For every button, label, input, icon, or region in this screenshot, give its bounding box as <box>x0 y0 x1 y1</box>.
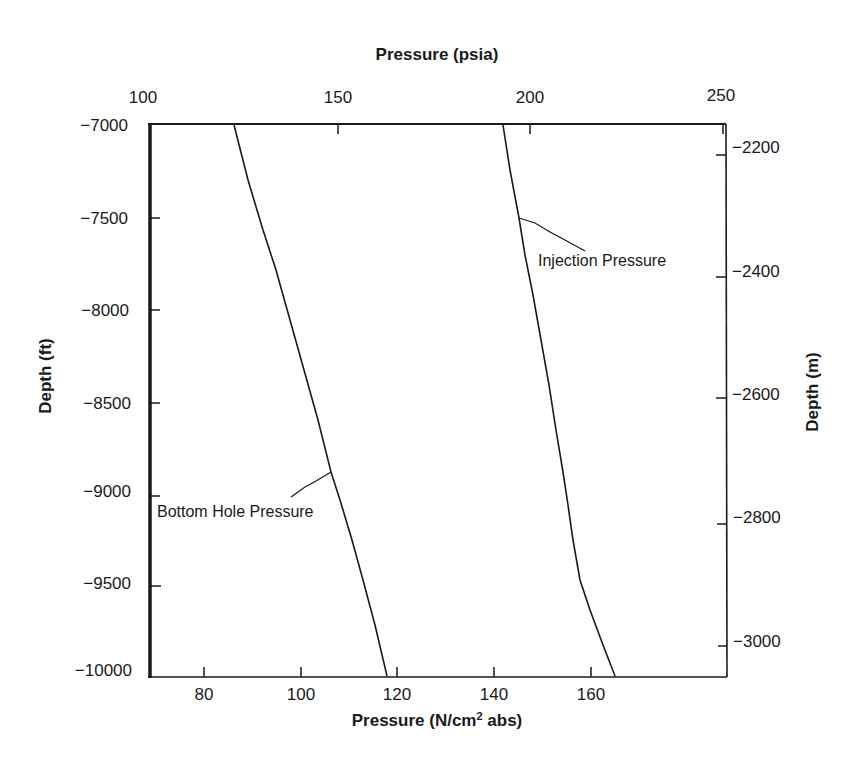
bottom-tick-label: 100 <box>287 685 315 704</box>
series-bottom-hole-pressure <box>234 125 387 676</box>
left-tick-label: −7500 <box>80 209 128 228</box>
leader-line <box>291 472 331 497</box>
left-tick-label: −8500 <box>83 394 131 413</box>
left-tick-label: −9000 <box>83 482 131 501</box>
right-tick-label: −2800 <box>733 508 781 527</box>
annotation-label: Bottom Hole Pressure <box>157 503 314 520</box>
bottom-tick-label: 80 <box>195 685 214 704</box>
right-tick-label: −3000 <box>733 632 781 651</box>
left-tick-label: −7000 <box>80 116 128 135</box>
left-tick-label: −9500 <box>83 574 131 593</box>
top-tick-label: 150 <box>324 88 352 107</box>
annotation-label: Injection Pressure <box>538 252 666 269</box>
bottom-axis-title: Pressure (N/cm2 abs) <box>352 710 523 730</box>
annotation-injection-pressure: Injection Pressure <box>519 218 666 269</box>
axis-right <box>726 124 727 677</box>
bottom-tick-label: 120 <box>383 685 411 704</box>
leader-line <box>519 218 585 251</box>
right-tick-label: −2600 <box>732 385 780 404</box>
top-tick-label: 100 <box>129 88 157 107</box>
right-axis-ticks <box>716 155 727 646</box>
depth-pressure-chart: 100 150 200 250 Pressure (psia) 80 100 1… <box>0 0 868 771</box>
bottom-axis-ticks <box>204 667 591 677</box>
plot-frame <box>148 124 727 678</box>
top-tick-label: 200 <box>516 88 544 107</box>
top-axis-tick-labels: 100 150 200 250 <box>129 86 735 107</box>
annotation-bottom-hole-pressure: Bottom Hole Pressure <box>157 472 331 520</box>
right-tick-label: −2200 <box>732 138 780 157</box>
top-axis-title: Pressure (psia) <box>376 45 499 64</box>
right-axis-title: Depth (m) <box>803 352 822 431</box>
series-injection-pressure <box>503 125 615 676</box>
left-tick-label: −10000 <box>75 661 132 680</box>
bottom-axis-tick-labels: 80 100 120 140 160 <box>195 685 606 704</box>
right-tick-label: −2400 <box>732 262 780 281</box>
left-axis-title: Depth (ft) <box>36 338 55 414</box>
bottom-tick-label: 140 <box>480 685 508 704</box>
left-axis-tick-labels: −7000 −7500 −8000 −8500 −9000 −9500 −100… <box>75 116 132 680</box>
left-tick-label: −8000 <box>81 301 129 320</box>
bottom-tick-label: 160 <box>577 685 605 704</box>
right-axis-tick-labels: −2200 −2400 −2600 −2800 −3000 <box>732 138 781 651</box>
top-axis-ticks <box>338 124 723 134</box>
top-tick-label: 250 <box>707 86 735 105</box>
